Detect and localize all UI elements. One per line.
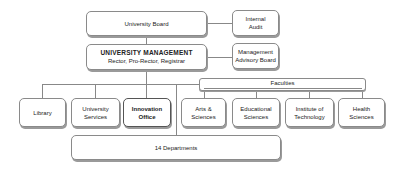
internal-audit-line1: Internal [245,15,265,23]
university-board-label: University Board [124,20,168,28]
innovation-line2: Office [138,113,155,121]
faculties-label: Faculties [200,79,365,87]
internal-audit-box: Internal Audit [232,10,279,36]
tech-line2: Technology [294,113,324,121]
innovation-office-box: Innovation Office [123,98,171,127]
faculty-bracket-inner [204,88,362,89]
services-line1: University [82,105,108,113]
services-line2: Services [84,113,107,121]
educational-sciences-box: Educational Sciences [232,98,280,127]
connector-departments [176,84,177,135]
health-sciences-box: Health Sciences [338,98,385,127]
tech-line1: Institute of [296,105,324,113]
edu-line2: Sciences [244,113,268,121]
arts-line1: Arts & [195,105,211,113]
innovation-line1: Innovation [132,105,162,113]
institute-technology-box: Institute of Technology [285,98,334,127]
university-board-box: University Board [86,11,207,36]
faculties-group: Faculties [199,78,366,91]
edu-line1: Educational [240,105,271,113]
university-management-title: UNIVERSITY MANAGEMENT [100,49,192,57]
arts-sciences-box: Arts & Sciences [181,98,226,127]
library-box: Library [19,98,66,127]
connector-innovation [146,84,147,98]
connector-board-audit [207,23,232,24]
connector-management-stem [146,70,147,84]
advisory-board-line1: Management [238,48,273,56]
university-services-box: University Services [71,98,120,127]
arts-line2: Sciences [191,113,215,121]
advisory-board-box: Management Advisory Board [232,43,279,69]
library-label: Library [33,109,51,117]
connector-services [95,84,96,98]
health-line1: Health [353,105,370,113]
connector-faculties-left [190,84,199,85]
advisory-board-line2: Advisory Board [235,56,276,64]
university-management-subtitle: Rector, Pro-Rector, Registrar [108,57,185,65]
departments-box: 14 Departments [71,135,281,160]
university-management-box: UNIVERSITY MANAGEMENT Rector, Pro-Rector… [86,44,207,70]
health-line2: Sciences [349,113,373,121]
connector-library [42,84,43,98]
connector-management-advisory [207,57,232,58]
internal-audit-line2: Audit [249,23,263,31]
departments-label: 14 Departments [155,144,198,152]
connector-board-management [146,36,147,44]
